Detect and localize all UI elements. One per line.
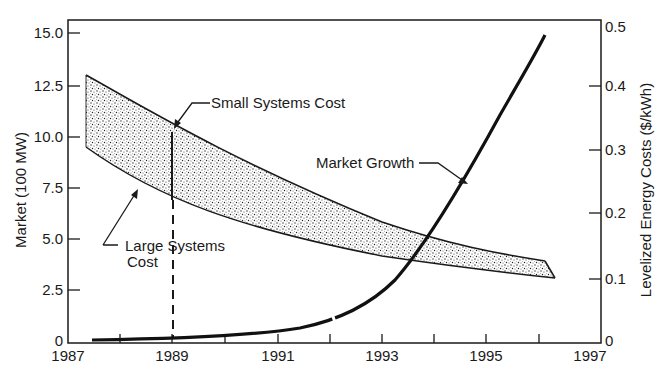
market-growth-leader <box>419 163 462 180</box>
x-tick: 1987 <box>51 347 84 364</box>
y-left-tick: 7.5 <box>42 179 63 196</box>
market-growth-label: Market Growth <box>316 154 414 171</box>
large-systems-label-line2: Cost <box>127 253 159 270</box>
x-tick: 1997 <box>573 347 606 364</box>
small-systems-leader <box>178 103 210 122</box>
small-systems-label: Small Systems Cost <box>211 94 346 111</box>
left-y-tick-labels: 15.0 12.5 10.0 7.5 5.0 2.5 0 <box>34 24 63 349</box>
y-left-tick: 5.0 <box>42 230 63 247</box>
y-left-axis-title: Market (100 MW) <box>12 132 29 248</box>
y-left-tick: 15.0 <box>34 24 63 41</box>
x-tick: 1989 <box>155 347 188 364</box>
chart: 15.0 12.5 10.0 7.5 5.0 2.5 0 Market (100… <box>0 0 667 378</box>
x-tick: 1995 <box>469 347 502 364</box>
y-right-tick: 0.1 <box>605 270 626 287</box>
x-tick: 1993 <box>365 347 398 364</box>
y-right-tick: 0.5 <box>605 18 626 35</box>
right-y-tick-labels: 0.5 0.4 0.3 0.2 0.1 0 <box>605 18 626 349</box>
left-y-axis <box>68 33 80 290</box>
y-right-axis-title: Levelized Energy Costs ($/kWh) <box>637 83 654 297</box>
y-right-tick: 0.3 <box>605 141 626 158</box>
y-left-tick: 10.0 <box>34 128 63 145</box>
y-left-tick: 2.5 <box>42 281 63 298</box>
large-systems-label-line1: Large Systems <box>125 237 225 254</box>
x-tick: 1991 <box>261 347 294 364</box>
x-tick-labels: 1987 1989 1991 1993 1995 1997 <box>51 347 606 364</box>
y-left-tick: 12.5 <box>34 77 63 94</box>
y-right-tick: 0.2 <box>605 204 626 221</box>
y-right-tick: 0.4 <box>605 77 626 94</box>
right-y-axis <box>589 86 601 279</box>
